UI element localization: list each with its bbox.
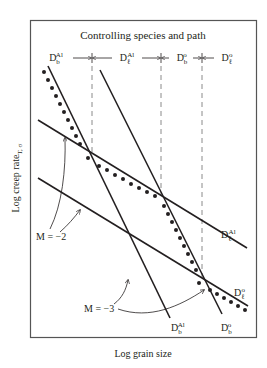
slope-label-m2: M = −2 [36,231,66,242]
mechanism-lines [38,66,248,318]
regime-boundaries [92,66,202,280]
line-dl-al [38,120,247,248]
diagram-title: Controlling species and path [80,29,206,41]
overall-dotted-path [42,70,247,312]
slope-arrows [50,138,204,313]
regime-label-dl-al: DℓAl [120,51,135,66]
diagram-canvas: Controlling species and path DbAl DℓAl D… [0,0,267,368]
y-axis-label: Log creep rateT, σ [10,143,24,212]
y-axis-label-sub: T, σ [16,143,24,154]
label-db-al: DbAl [171,321,185,336]
x-axis-label: Log grain size [114,348,172,359]
y-axis-label-main: Log creep rate [10,154,21,212]
regime-label-db-al: DbAl [49,51,63,66]
regime-arrows [73,53,214,63]
regime-header: DbAl DℓAl Dbo Dℓo [49,51,233,66]
line-db-al [48,66,170,318]
label-db-o: Dbo [221,321,232,336]
label-dl-al: DℓAl [221,228,236,243]
line-dl-o [38,178,248,306]
regime-label-dl-o: Dℓo [221,51,233,66]
regime-label-db-o: Dbo [177,51,188,66]
slope-label-m3: M = −3 [84,303,114,314]
